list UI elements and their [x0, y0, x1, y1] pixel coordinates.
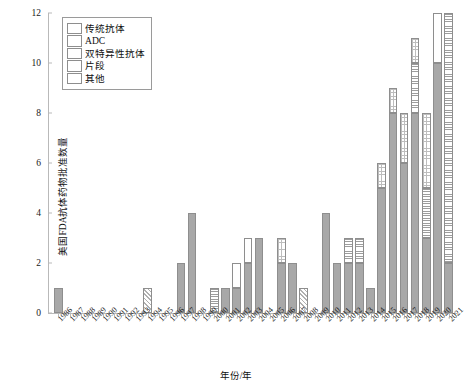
- bar-segment-adc: [411, 63, 420, 113]
- y-tick-label: 12: [32, 8, 42, 18]
- bar-2004[interactable]: [255, 238, 264, 313]
- chart-root: 美国FDA抗体药物批准数量 年份/年 024681012 传统抗体ADC双特异性…: [0, 0, 472, 391]
- y-tick-label: 4: [36, 208, 41, 218]
- bar-segment-bispecific: [377, 163, 386, 188]
- bar-segment-conventional: [411, 113, 420, 313]
- bar-segment-conventional: [255, 238, 264, 313]
- y-tick-mark: [48, 163, 52, 164]
- bar-2013[interactable]: [355, 238, 364, 313]
- bar-segment-bispecific: [411, 38, 420, 63]
- bar-segment-adc: [355, 238, 364, 263]
- y-tick-mark: [48, 63, 52, 64]
- legend-item-other[interactable]: 其他: [67, 72, 145, 85]
- legend-label: 片段: [85, 61, 105, 71]
- legend-item-fragment[interactable]: 片段: [67, 60, 145, 73]
- bar-1986[interactable]: [54, 288, 63, 313]
- bar-segment-conventional: [389, 113, 398, 313]
- y-tick-mark: [48, 13, 52, 14]
- legend-label: ADC: [85, 36, 105, 46]
- bar-1998[interactable]: [188, 213, 197, 313]
- y-tick-label: 2: [36, 258, 41, 268]
- bar-segment-conventional: [188, 213, 197, 313]
- legend-item-conventional[interactable]: 传统抗体: [67, 22, 145, 35]
- bar-segment-other: [244, 238, 253, 263]
- bar-2016[interactable]: [389, 88, 398, 313]
- y-tick-label: 8: [36, 108, 41, 118]
- bar-2015[interactable]: [377, 163, 386, 313]
- horizontal-line-swatch: [67, 35, 82, 47]
- chart-legend: 传统抗体ADC双特异性抗体片段其他: [62, 17, 152, 90]
- bar-segment-bispecific: [400, 113, 409, 163]
- bar-2006[interactable]: [277, 238, 286, 313]
- bar-2019[interactable]: [422, 113, 431, 313]
- bar-2021[interactable]: [444, 13, 453, 313]
- bar-segment-other: [433, 13, 442, 63]
- bar-segment-bispecific: [389, 88, 398, 113]
- y-tick-label: 10: [32, 58, 42, 68]
- bar-segment-other: [232, 263, 241, 288]
- bar-2010[interactable]: [322, 213, 331, 313]
- bar-segment-adc: [422, 188, 431, 238]
- bar-segment-bispecific: [422, 113, 431, 188]
- legend-item-adc[interactable]: ADC: [67, 35, 145, 48]
- y-tick-mark: [48, 263, 52, 264]
- bar-2017[interactable]: [400, 113, 409, 313]
- y-tick-mark: [48, 113, 52, 114]
- bar-segment-adc: [344, 238, 353, 263]
- bar-segment-conventional: [54, 288, 63, 313]
- y-tick-mark: [48, 213, 52, 214]
- bar-segment-conventional: [422, 238, 431, 313]
- y-tick-mark: [48, 313, 52, 314]
- bar-segment-bispecific: [277, 238, 286, 263]
- bar-segment-conventional: [400, 163, 409, 313]
- bar-2012[interactable]: [344, 238, 353, 313]
- legend-label: 其他: [85, 74, 105, 84]
- diagonal-hatch-swatch: [67, 60, 82, 72]
- bar-segment-conventional: [377, 188, 386, 313]
- solid-gray-swatch: [67, 23, 82, 35]
- legend-item-bispecific[interactable]: 双特异性抗体: [67, 47, 145, 60]
- white-swatch: [67, 73, 82, 85]
- bar-segment-adc: [444, 13, 453, 263]
- y-tick-label: 0: [36, 308, 41, 318]
- bar-segment-conventional: [322, 213, 331, 313]
- bar-2018[interactable]: [411, 38, 420, 313]
- y-tick-label: 6: [36, 158, 41, 168]
- legend-label: 双特异性抗体: [85, 49, 145, 59]
- bar-2020[interactable]: [433, 13, 442, 313]
- bar-2003[interactable]: [244, 238, 253, 313]
- legend-label: 传统抗体: [85, 24, 125, 34]
- bar-segment-conventional: [433, 63, 442, 313]
- dotted-swatch: [67, 48, 82, 60]
- x-axis-title: 年份/年: [0, 368, 472, 382]
